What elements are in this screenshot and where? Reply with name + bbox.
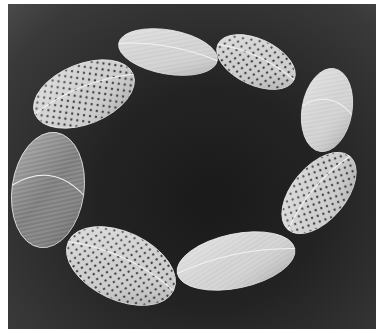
necklace-link [24,46,145,141]
necklace-illustration [8,4,376,329]
necklace-link [172,222,301,300]
necklace-photo [8,4,376,329]
necklace-link [267,139,370,247]
necklace-link [54,211,188,322]
necklace-link [208,23,304,100]
necklace-link [295,64,359,155]
